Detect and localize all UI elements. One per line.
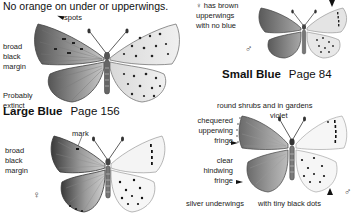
female-symbol-icon: ♀ [33,190,41,200]
small-blue-butterfly-illustration [255,4,353,60]
underwings-label: silver underwings [186,199,244,208]
male-symbol-icon: ♂ [245,44,253,54]
large-blue-upper-butterfly-illustration [32,16,182,106]
large-blue-title: Large BluePage 156 [3,105,120,118]
species-name: Small Blue [222,68,281,80]
broad-black-margin-label: broad black margin [5,146,28,176]
section-heading: No orange on under or upperwings. [3,0,168,12]
clear-fringe-label: clear hindwing fringe [188,156,233,186]
page-reference[interactable]: Page 84 [289,68,332,80]
habitat-note: round shrubs and in gardens [217,101,312,110]
black-dots-label: with tiny black dots [258,199,321,208]
chequered-blue-male-butterfly-illustration [236,112,354,198]
species-name: Large Blue [3,105,62,117]
page-reference[interactable]: Page 156 [70,105,119,117]
broad-black-margin-label: broad black margin [3,42,26,72]
female-description-label: ♀ has brown upperwings with no blue [196,1,238,31]
chequered-fringe-label: chequered upperwing fringe [188,116,233,146]
large-blue-female-butterfly-illustration [50,132,170,219]
small-blue-title: Small BluePage 84 [222,68,332,81]
